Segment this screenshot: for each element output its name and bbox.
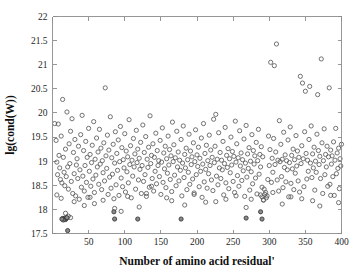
y-axis-ticks: 17.51818.51919.52020.52121.522: [31, 12, 342, 239]
data-point: [233, 119, 237, 123]
data-point: [334, 126, 338, 130]
data-point: [318, 204, 322, 208]
data-point: [209, 178, 213, 182]
data-point: [196, 145, 200, 149]
data-point: [282, 130, 286, 134]
data-point: [302, 185, 306, 189]
data-point: [94, 173, 98, 177]
data-point: [90, 143, 94, 147]
data-point: [61, 155, 65, 159]
data-point: [146, 165, 150, 169]
data-point: [212, 117, 216, 121]
data-point: [232, 154, 236, 158]
data-point: [244, 205, 248, 209]
y-tick-label: 21: [38, 60, 48, 70]
data-point: [313, 188, 317, 192]
data-point: [279, 142, 283, 146]
data-point: [107, 148, 111, 152]
data-point: [300, 144, 304, 148]
data-point: [204, 200, 208, 204]
data-point: [251, 148, 255, 152]
data-point: [154, 182, 158, 186]
data-point: [231, 179, 235, 183]
data-point: [183, 152, 187, 156]
data-point: [176, 150, 180, 154]
data-point: [284, 180, 288, 184]
data-point: [128, 162, 132, 166]
data-point: [187, 132, 191, 136]
data-point: [169, 154, 173, 158]
scatter-plot-figure: 17.51818.51919.52020.52121.522 501001502…: [0, 0, 358, 279]
data-point: [120, 146, 124, 150]
data-point: [188, 149, 192, 153]
data-point: [70, 117, 74, 121]
data-point: [214, 200, 218, 204]
data-point: [306, 169, 310, 173]
data-point: [217, 131, 221, 135]
data-point: [140, 163, 144, 167]
data-point: [257, 172, 261, 176]
x-tick-label: 50: [84, 237, 94, 247]
data-point: [126, 155, 130, 159]
data-point: [268, 147, 272, 151]
data-point: [283, 153, 287, 157]
data-point: [172, 143, 176, 147]
data-point: [230, 163, 234, 167]
data-point: [243, 194, 247, 198]
data-point: [165, 171, 169, 175]
data-point: [126, 194, 130, 198]
data-point: [216, 183, 220, 187]
data-point: [308, 84, 312, 88]
data-point: [118, 124, 122, 128]
y-tick-label: 18.5: [31, 181, 48, 191]
data-point: [313, 159, 317, 163]
data-point: [75, 157, 79, 161]
data-point: [292, 158, 296, 162]
data-point: [89, 161, 93, 165]
data-point: [199, 136, 203, 140]
x-tick-label: 250: [226, 237, 241, 247]
data-point: [279, 175, 283, 179]
data-point: [163, 144, 167, 148]
data-point: [323, 173, 327, 177]
data-point: [191, 141, 195, 145]
data-point: [190, 155, 194, 159]
data-point: [113, 217, 117, 221]
data-point: [331, 175, 335, 179]
data-point: [127, 118, 131, 122]
data-point: [100, 159, 104, 163]
data-point: [122, 166, 126, 170]
y-tick-label: 19: [38, 157, 48, 167]
data-point: [300, 197, 304, 201]
data-point: [322, 127, 326, 131]
data-point: [180, 194, 184, 198]
data-point: [79, 133, 83, 137]
data-point: [223, 125, 227, 129]
data-point: [193, 128, 197, 132]
data-point: [214, 112, 218, 116]
data-point: [59, 134, 63, 138]
data-point: [123, 190, 127, 194]
data-point: [111, 142, 115, 146]
data-point: [137, 205, 141, 209]
data-point: [235, 174, 239, 178]
data-point: [244, 123, 248, 127]
data-point: [256, 127, 260, 131]
data-point: [180, 161, 184, 165]
data-point: [230, 149, 234, 153]
data-point: [289, 181, 293, 185]
data-point: [253, 176, 257, 180]
data-point: [154, 131, 158, 135]
data-point: [149, 161, 153, 165]
data-point: [87, 126, 91, 130]
y-axis-label: lg(cond(W)): [4, 95, 17, 155]
data-point: [142, 150, 146, 154]
data-point: [337, 146, 341, 150]
data-point: [300, 81, 304, 85]
data-point: [266, 177, 270, 181]
data-point: [116, 138, 120, 142]
axis-frame: [53, 17, 342, 234]
data-point: [132, 165, 136, 169]
data-point: [96, 150, 100, 154]
data-point: [89, 184, 93, 188]
